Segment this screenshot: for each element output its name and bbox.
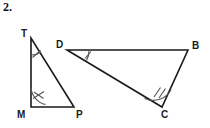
vertex-label-M: M [17,110,25,120]
vertex-label-D: D [56,40,63,50]
angle-tick-T-1 [33,51,41,58]
geometry-figure: 2. [0,0,210,128]
vertex-label-B: B [192,41,199,51]
geometry-canvas [0,0,210,128]
vertex-label-P: P [76,110,83,120]
triangle-DBC [67,50,188,107]
angle-tick-C-1 [154,88,161,98]
angle-mark-M [31,88,46,105]
angle-mark-D [85,50,91,61]
angle-arc-M [31,88,46,105]
angle-mark-T [31,51,41,58]
vertex-label-T: T [21,29,27,39]
triangle-TMP [31,38,74,107]
vertex-label-C: C [161,110,168,120]
triangle-TMP-outline [31,38,74,107]
